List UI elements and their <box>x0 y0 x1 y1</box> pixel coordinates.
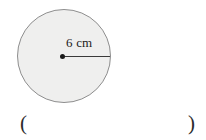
center-point-dot-icon <box>60 54 65 59</box>
answer-close-paren: ) <box>188 110 195 136</box>
radius-label: 6 cm <box>66 35 92 50</box>
answer-row: ( ) <box>0 110 206 138</box>
answer-blank-input[interactable] <box>32 112 186 136</box>
radius-line <box>63 56 110 57</box>
answer-open-paren: ( <box>20 110 27 136</box>
